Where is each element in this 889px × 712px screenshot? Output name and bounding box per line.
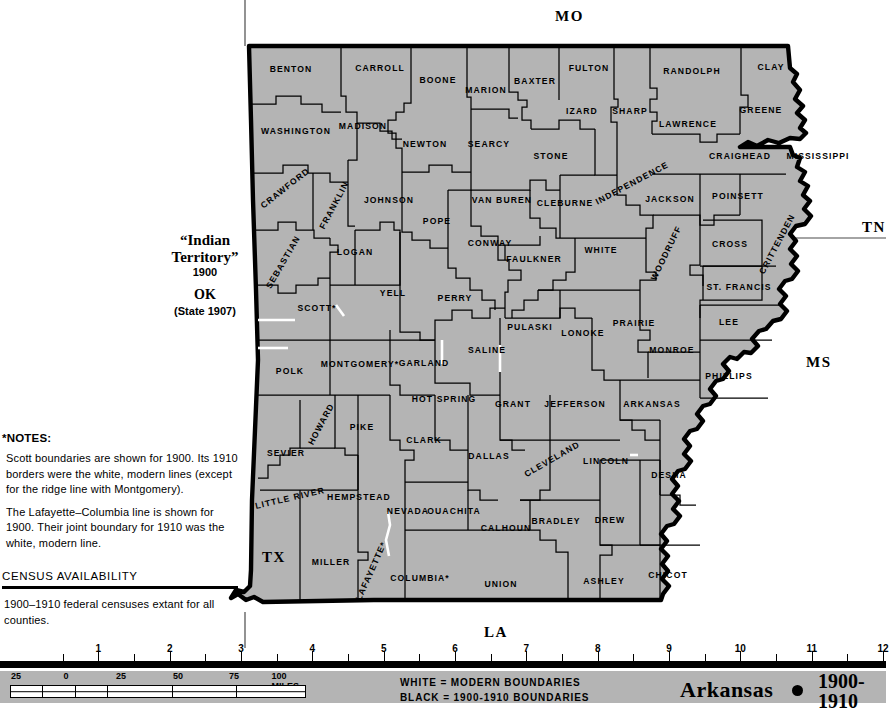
county-label: SHARP: [612, 106, 648, 116]
ruler-tick-minor: [205, 654, 206, 662]
county-label: GRANT: [495, 399, 531, 409]
county-label: VAN BUREN: [472, 195, 532, 205]
census-availability-title: CENSUS AVAILABILITY: [2, 570, 240, 582]
ruler-tick-minor: [63, 654, 64, 662]
county-label: LAWRENCE: [659, 119, 717, 129]
notes-paragraph-2: The Lafayette–Columbia line is shown for…: [6, 505, 240, 552]
ruler-number: 1: [96, 643, 102, 654]
ruler-tick-minor: [348, 654, 349, 662]
county-label: STONE: [534, 151, 569, 161]
ruler-number: 6: [452, 643, 458, 654]
county-label: SEARCY: [468, 139, 510, 149]
ruler-number: 11: [806, 643, 817, 654]
scale-bar-segment: [237, 686, 305, 697]
state-label-tx: TX: [262, 549, 286, 566]
county-label: SEVIER: [267, 448, 305, 458]
legend-text: WHITE = MODERN BOUNDARIES BLACK = 1900-1…: [400, 676, 589, 705]
census-divider-rule: [2, 586, 238, 589]
county-label: NEWTON: [403, 139, 448, 149]
indian-territory-line2: Territory”: [145, 249, 265, 266]
ruler-scale: 123456789101112: [0, 645, 886, 671]
notes-paragraph-1: Scott boundaries are shown for 1900. Its…: [6, 451, 240, 498]
scale-bar-segment: [76, 686, 108, 697]
county-label: BENTON: [270, 64, 313, 74]
ruler-number: 10: [735, 643, 746, 654]
indian-territory-year: 1900: [145, 266, 265, 278]
county-label: HOT SPRING: [412, 394, 476, 404]
county-label: POPE: [423, 216, 451, 226]
legend-line-white: WHITE = MODERN BOUNDARIES: [400, 676, 589, 691]
map-legend-band: WHITE = MODERN BOUNDARIES BLACK = 1900-1…: [330, 671, 886, 703]
ruler-number: 9: [666, 643, 672, 654]
county-label: MADISON: [339, 121, 387, 131]
county-label: ASHLEY: [583, 576, 624, 586]
county-label: MILLER: [312, 557, 351, 567]
scale-bar-frame: [10, 685, 306, 698]
county-label: RANDOLPH: [663, 66, 721, 76]
county-label: GREENE: [740, 105, 783, 115]
map-period-line2: 1910: [818, 692, 865, 712]
county-label: CALHOUN: [481, 523, 532, 533]
ruler-tick-minor: [419, 654, 420, 662]
ruler-bar: [0, 661, 886, 668]
ruler-number: 7: [524, 643, 530, 654]
state-label-mo: MO: [555, 8, 584, 25]
county-label: DREW: [595, 515, 626, 525]
county-label: WHITE: [584, 245, 617, 255]
county-label: MISSISSIPPI: [786, 151, 849, 161]
county-label: IZARD: [566, 106, 598, 116]
county-label: BAXTER: [514, 76, 556, 86]
ruler-number: 8: [595, 643, 601, 654]
county-label: CHICOT: [648, 570, 688, 580]
county-label: PIKE: [350, 422, 374, 432]
county-label: UNION: [484, 579, 517, 589]
ruler-tick-minor: [776, 654, 777, 662]
county-label: CLEBURNE: [537, 198, 594, 208]
county-label: BOONE: [419, 75, 456, 85]
county-label: GARLAND: [399, 358, 450, 368]
ruler-tick-minor: [277, 654, 278, 662]
county-label: LONOKE: [561, 328, 604, 338]
county-label: JACKSON: [645, 194, 695, 204]
county-label: YELL: [380, 288, 406, 298]
scale-bar-segment: [11, 686, 43, 697]
county-label: SCOTT*: [297, 303, 336, 313]
county-label: HEMPSTEAD: [327, 492, 391, 502]
notes-title: *NOTES:: [2, 432, 240, 444]
county-label: CONWAY: [468, 238, 512, 248]
county-label: LINCOLN: [583, 456, 629, 466]
ruler-number: 5: [381, 643, 387, 654]
county-label: CRAIGHEAD: [709, 151, 771, 161]
state-label-ms: MS: [806, 354, 832, 371]
notes-panel: *NOTES: Scott boundaries are shown for 1…: [2, 432, 240, 552]
county-label: BRADLEY: [531, 516, 580, 526]
census-availability-text: 1900–1910 federal censuses extant for al…: [4, 597, 240, 629]
county-label: PRAIRIE: [613, 318, 656, 328]
county-label: POINSETT: [712, 191, 764, 201]
oklahoma-abbrev: OK: [145, 287, 265, 303]
scale-bar-segment: [173, 686, 238, 697]
scale-bar-number: 0: [63, 671, 68, 681]
county-label: FULTON: [569, 63, 610, 73]
ruler-number: 4: [310, 643, 316, 654]
legend-line-black: BLACK = 1900-1910 BOUNDARIES: [400, 691, 589, 706]
census-availability-panel: CENSUS AVAILABILITY 1900–1910 federal ce…: [2, 570, 240, 629]
county-label: CROSS: [712, 239, 748, 249]
county-label: ARKANSAS: [623, 399, 681, 409]
ruler-tick-minor: [705, 654, 706, 662]
county-label: LOGAN: [337, 247, 374, 257]
scale-bar-segment: [43, 686, 75, 697]
county-label: CLARK: [406, 435, 442, 445]
county-label: CLAY: [757, 62, 784, 72]
county-label: FAULKNER: [506, 254, 562, 264]
county-label: COLUMBIA*: [390, 573, 450, 583]
county-label: LEE: [719, 317, 739, 327]
title-bullet-dot: [792, 685, 803, 696]
county-label: DALLAS: [468, 451, 509, 461]
county-label: MARION: [465, 85, 506, 95]
county-label: PERRY: [438, 293, 473, 303]
county-label: JOHNSON: [364, 195, 414, 205]
county-label: DESHA: [651, 470, 687, 480]
county-label: JEFFERSON: [544, 399, 605, 409]
indian-territory-line1: “Indian: [145, 232, 265, 249]
